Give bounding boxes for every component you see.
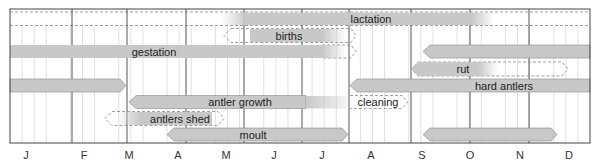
month-label-nov: N <box>516 149 524 161</box>
month-axis: J F M A M J J A S O N D <box>23 149 573 161</box>
label-gestation: gestation <box>132 46 177 58</box>
month-label-feb: F <box>81 149 88 161</box>
bar-rut <box>411 62 568 76</box>
label-antlers-shed: antlers shed <box>150 113 210 125</box>
month-label-jan: J <box>23 149 29 161</box>
label-births: births <box>276 30 303 42</box>
month-label-apr: A <box>174 149 182 161</box>
label-moult: moult <box>240 129 267 141</box>
label-cleaning: cleaning <box>358 96 399 108</box>
label-rut: rut <box>457 63 470 75</box>
bar-moult <box>167 128 557 141</box>
label-hard-antlers: hard antlers <box>475 80 534 92</box>
month-label-jul: J <box>319 149 325 161</box>
month-label-oct: O <box>466 149 475 161</box>
bar-gestation <box>10 45 590 58</box>
label-lactation: lactation <box>351 13 392 25</box>
month-label-mar: M <box>124 149 133 161</box>
label-antler-growth: antler growth <box>208 96 272 108</box>
month-label-may: M <box>221 149 230 161</box>
deer-annual-cycle-chart: lactation births gestation rut hard antl… <box>0 0 603 165</box>
month-label-aug: A <box>367 149 375 161</box>
month-label-dec: D <box>565 149 573 161</box>
month-label-jun: J <box>271 149 277 161</box>
month-label-sep: S <box>418 149 425 161</box>
